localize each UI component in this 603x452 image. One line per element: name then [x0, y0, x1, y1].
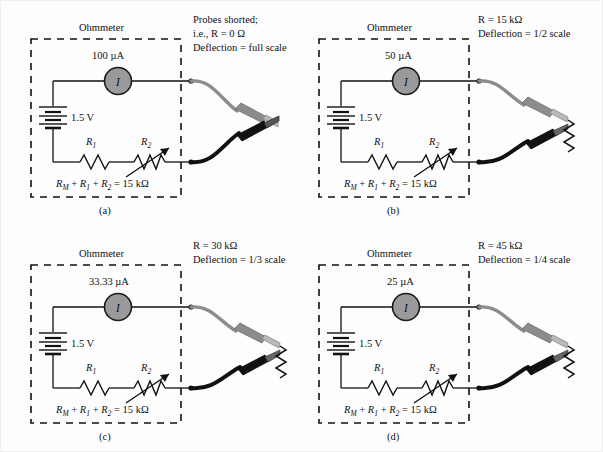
battery-icon: [39, 333, 67, 354]
formula-r2-sub-d: 2: [396, 409, 400, 418]
panel-d: I: [302, 227, 603, 452]
probe-handle-black: [238, 355, 269, 375]
probe-tip-black: [265, 350, 280, 362]
r2-subscript-b: 2: [435, 141, 439, 150]
formula-value-b: 15 kΩ: [411, 178, 437, 189]
formula-eq-c: =: [114, 404, 120, 415]
formula-r1-sub-c: 1: [86, 409, 90, 418]
formula-plus2-b: +: [381, 178, 387, 189]
panel-letter-a: (a): [99, 204, 111, 217]
note-a-line1: Probes shorted;: [193, 13, 258, 26]
probe-lead-grey: [191, 81, 237, 111]
battery-icon: [39, 107, 67, 128]
probe-tip-grey: [550, 335, 568, 348]
current-label-a: 100 µA: [92, 49, 124, 62]
panel-letter-d: (d): [387, 430, 399, 443]
panel-a-schematic: I: [1, 1, 302, 227]
probe-lead-black: [191, 367, 240, 388]
formula-plus1-b: +: [359, 178, 365, 189]
formula-plus2-a: +: [93, 178, 99, 189]
formula-r1-sub-d: 1: [374, 409, 378, 418]
r1-subscript-c: 1: [92, 367, 96, 376]
r1-subscript-b: 1: [380, 141, 384, 150]
current-label-c: 33.33 µA: [89, 275, 129, 288]
r2-label-b: R2: [429, 135, 439, 150]
resistor-r2-icon: [422, 155, 453, 169]
formula-c: RM + R1 + R2 = 15 kΩ: [56, 403, 149, 418]
battery-voltage-label-c: 1.5 V: [71, 337, 94, 350]
r1-label-b: R1: [374, 135, 384, 150]
probe-lead-grey: [479, 81, 524, 105]
r2-label-c: R2: [141, 361, 151, 376]
formula-r2-sub-a: 2: [108, 183, 112, 192]
formula-eq-d: =: [402, 404, 408, 415]
resistor-r2-icon: [134, 381, 165, 395]
ohmmeter-boundary-box: [31, 39, 181, 197]
note-a-line3: Deflection = full scale: [193, 41, 287, 54]
probe-lead-grey: [479, 307, 524, 331]
formula-rm-sub-b: M: [350, 183, 356, 192]
r2-subscript-a: 2: [147, 141, 151, 150]
formula-plus1-d: +: [359, 404, 365, 415]
probe-lead-grey: [191, 307, 236, 331]
battery-icon: [327, 107, 355, 128]
probe-handle-black: [526, 129, 557, 149]
r2-subscript-c: 2: [147, 367, 151, 376]
formula-b: RM + R1 + R2 = 15 kΩ: [344, 177, 437, 192]
note-c-line1: R = 30 kΩ: [193, 239, 237, 252]
battery-voltage-label-b: 1.5 V: [359, 111, 382, 124]
probe-handle-grey: [522, 323, 554, 343]
note-a-line2: i.e., R = 0 Ω: [193, 27, 245, 40]
r1-subscript-d: 1: [380, 367, 384, 376]
resistor-r2-icon: [422, 381, 453, 395]
formula-d: RM + R1 + R2 = 15 kΩ: [344, 403, 437, 418]
resistor-r1-icon: [80, 155, 109, 169]
current-label-d: 25 µA: [387, 275, 414, 288]
probe-tip-grey: [262, 335, 280, 348]
note-d-line1: R = 45 kΩ: [478, 239, 522, 252]
probe-tip-black: [553, 350, 568, 362]
resistor-r1-icon: [80, 381, 109, 395]
resistor-r1-icon: [368, 155, 397, 169]
panel-letter-c: (c): [99, 430, 111, 443]
probe-tip-grey: [550, 109, 568, 122]
panel-a: I: [1, 1, 302, 227]
battery-icon: [327, 333, 355, 354]
formula-rm-sub-c: M: [62, 409, 68, 418]
probe-tip-black: [553, 124, 568, 136]
formula-plus1-a: +: [71, 178, 77, 189]
note-c-line2: Deflection = 1/3 scale: [193, 253, 286, 266]
panel-c: I: [1, 227, 302, 452]
probe-lead-black: [479, 367, 528, 388]
probe-lead-black: [191, 133, 239, 162]
r1-label-c: R1: [86, 361, 96, 376]
panel-b: I: [302, 1, 603, 227]
probe-lead-black: [479, 141, 528, 162]
probe-handle-grey: [522, 97, 554, 117]
formula-a: RM + R1 + R2 = 15 kΩ: [56, 177, 149, 192]
probe-handle-grey: [235, 103, 267, 123]
formula-value-a: 15 kΩ: [123, 178, 149, 189]
formula-plus2-c: +: [93, 404, 99, 415]
resistor-r2-icon: [134, 155, 165, 169]
formula-r2-sub-c: 2: [108, 409, 112, 418]
panel-letter-b: (b): [387, 204, 399, 217]
r1-subscript-a: 1: [92, 141, 96, 150]
ohmmeter-title-d: Ohmmeter: [367, 247, 412, 260]
formula-value-d: 15 kΩ: [411, 404, 437, 415]
formula-plus2-d: +: [381, 404, 387, 415]
ohmmeter-title-a: Ohmmeter: [79, 21, 124, 34]
probe-handle-grey: [234, 323, 266, 343]
formula-eq-b: =: [402, 178, 408, 189]
r2-label-a: R2: [141, 135, 151, 150]
formula-r1-sub-b: 1: [374, 183, 378, 192]
formula-value-c: 15 kΩ: [123, 404, 149, 415]
note-d-line2: Deflection = 1/4 scale: [478, 253, 571, 266]
resistor-r1-icon: [368, 381, 397, 395]
formula-rm-sub-d: M: [350, 409, 356, 418]
ohmmeter-boundary-box: [31, 265, 181, 423]
ohmmeter-title-c: Ohmmeter: [79, 247, 124, 260]
ohmmeter-figure: I: [0, 0, 603, 452]
r1-label-d: R1: [374, 361, 384, 376]
formula-r1-sub-a: 1: [86, 183, 90, 192]
